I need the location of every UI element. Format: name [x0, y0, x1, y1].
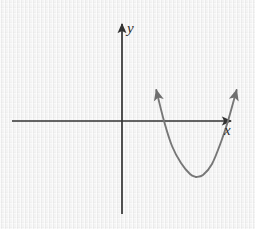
parabola-left-branch: [156, 90, 196, 177]
y-axis-label: y: [127, 21, 134, 36]
x-axis-label: x: [224, 123, 231, 138]
graph-figure: y x: [0, 0, 255, 229]
